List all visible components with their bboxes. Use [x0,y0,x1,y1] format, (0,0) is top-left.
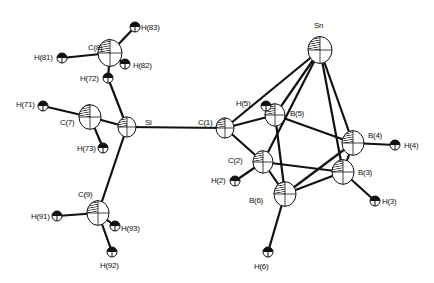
atom-label-h82: H(82) [133,61,152,70]
atom-h72 [103,73,113,83]
atom-label-si: Si [145,118,152,127]
atom-h6 [263,247,273,257]
atom-label-h93: H(93) [121,224,140,233]
atom-h91 [52,211,62,221]
atom-label-b3: B(3) [358,168,373,177]
atom-label-b5: B(5) [290,109,305,118]
atom-h81 [57,53,67,63]
atom-h73 [98,143,108,153]
atom-label-c1: C(1) [198,118,213,127]
atom-c2 [253,151,273,173]
atom-label-c7: C(7) [60,118,75,127]
atom-label-h6: H(6) [254,262,269,271]
atom-c1 [216,118,234,138]
atoms-layer [38,22,400,257]
atom-h83 [130,22,140,32]
atom-label-h5: H(5) [236,99,251,108]
atom-b3 [332,160,354,185]
atom-h93 [110,221,120,231]
atom-h3 [370,196,380,206]
atom-b4 [342,131,364,156]
atom-b6 [274,182,296,207]
atom-label-b4: B(4) [368,131,383,140]
atom-h5 [261,101,271,111]
atom-h4 [390,140,400,150]
atom-label-h83: H(83) [141,23,160,32]
atom-label-h2: H(2) [211,176,226,185]
atom-sn [308,37,332,64]
ortep-figure: SnSiC(8)C(7)C(9)C(1)C(2)B(5)B(4)B(3)B(6)… [0,0,434,283]
bond-sn-b4 [320,50,353,143]
atom-h82 [120,59,130,69]
atom-label-c8: C(8) [88,43,103,52]
atom-label-c9: C(9) [78,190,93,199]
bond-b5-b4 [275,115,353,143]
bond-c2-b3 [263,162,343,172]
atom-label-b6: B(6) [249,196,264,205]
atom-label-h71: H(71) [16,100,35,109]
atom-c9 [87,201,109,226]
atom-label-h92: H(92) [100,261,119,270]
atom-label-h81: H(81) [34,53,53,62]
atom-label-h3: H(3) [382,197,397,206]
atom-label-h4: H(4) [404,141,419,150]
atom-label-h73: H(73) [77,144,96,153]
atom-label-h72: H(72) [80,74,99,83]
atom-si [118,117,136,137]
atom-label-sn: Sn [314,21,323,30]
molecular-structure-diagram: SnSiC(8)C(7)C(9)C(1)C(2)B(5)B(4)B(3)B(6)… [0,0,434,283]
bond-si-c9 [98,127,127,213]
atom-h2 [230,176,240,186]
atom-label-c2: C(2) [228,156,243,165]
atom-label-h91: H(91) [31,212,50,221]
bond-si-c1 [127,127,225,128]
atom-h71 [38,101,48,111]
atom-h92 [107,247,117,257]
atom-c7 [79,105,101,130]
